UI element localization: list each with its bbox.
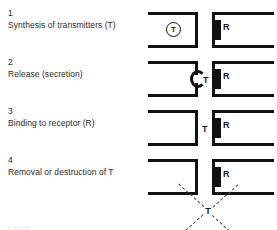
receptor-label-4: R (223, 170, 230, 179)
receptor-block-1 (213, 20, 221, 40)
degradation-ray-lower-right (212, 215, 238, 230)
step-number-1: 1 (8, 8, 140, 19)
vesicle-icon-1: T (166, 22, 181, 37)
step-row-1: 1 Synthesis of transmitters (T) T R (0, 8, 277, 56)
receptor-block-2 (213, 69, 221, 89)
free-transmitter-label-2: T (203, 76, 209, 85)
terminal-outline-4 (148, 159, 198, 195)
receptor-label-1: R (223, 23, 230, 32)
receptor-label-3: R (223, 121, 230, 130)
postsynaptic-cell-1: R (212, 12, 274, 48)
step-number-2: 2 (8, 57, 140, 68)
postsynaptic-cell-3: R (212, 110, 274, 146)
receptor-block-4 (213, 167, 221, 187)
postsynaptic-outline-1 (212, 12, 274, 48)
transmitter-degradation-icon: T (168, 192, 248, 230)
presynaptic-terminal-1: T (148, 12, 200, 48)
presynaptic-terminal-2 (148, 61, 200, 97)
degraded-transmitter-label: T (204, 207, 212, 216)
bound-transmitter-label-3: T (202, 125, 208, 134)
step-row-3: 3 Binding to receptor (R) T R (0, 106, 277, 154)
receptor-label-2: R (223, 72, 230, 81)
step-caption-1: 1 Synthesis of transmitters (T) (8, 8, 140, 31)
presynaptic-terminal-3 (148, 110, 200, 146)
synaptic-transmission-figure: 1 Synthesis of transmitters (T) T R 2 Re… (0, 0, 277, 230)
step-label-4: Removal or destruction of T (8, 166, 140, 178)
step-caption-4: 4 Removal or destruction of T (8, 155, 140, 178)
postsynaptic-cell-4: R (212, 159, 274, 195)
step-caption-2: 2 Release (secretion) (8, 57, 140, 80)
step-label-2: Release (secretion) (8, 68, 140, 80)
step-row-2: 2 Release (secretion) T R (0, 57, 277, 105)
step-number-3: 3 (8, 106, 140, 117)
presynaptic-terminal-4 (148, 159, 200, 195)
step-number-4: 4 (8, 155, 140, 166)
step-caption-3: 3 Binding to receptor (R) (8, 106, 140, 129)
terminal-outline-3 (148, 110, 198, 146)
step-label-3: Binding to receptor (R) (8, 117, 140, 129)
figure-bottom-caption: Figure (8, 223, 31, 230)
degradation-ray-lower-left (178, 214, 204, 230)
postsynaptic-cell-2: R (212, 61, 274, 97)
postsynaptic-outline-4 (212, 159, 274, 195)
postsynaptic-outline-2 (212, 61, 274, 97)
postsynaptic-outline-3 (212, 110, 274, 146)
receptor-block-3 (213, 118, 221, 138)
step-label-1: Synthesis of transmitters (T) (8, 19, 140, 31)
